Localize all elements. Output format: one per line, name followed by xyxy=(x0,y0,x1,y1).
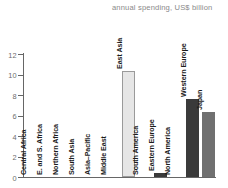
plot-area: Central AfricaE. and S. AfricaNorthern A… xyxy=(23,54,215,177)
x-axis-category-label: Northern Africa xyxy=(51,124,60,175)
y-axis-tick-label: 10 xyxy=(8,71,16,80)
bar[interactable] xyxy=(186,99,199,177)
x-axis-category-label: North America xyxy=(163,127,172,175)
x-axis-category-label: East Asia xyxy=(115,38,124,69)
bar[interactable] xyxy=(202,112,215,177)
y-axis-tick: 0 xyxy=(18,177,23,178)
x-axis-category-label: Middle East xyxy=(99,136,108,175)
x-axis-category-label: Asia–Pacific xyxy=(83,134,92,175)
x-axis-category-label: Japan xyxy=(195,90,204,110)
x-axis-category-label: South America xyxy=(131,126,140,175)
y-axis-tick-label: 2 xyxy=(12,153,16,162)
x-axis-line xyxy=(23,177,216,178)
x-axis-category-label: E. and S. Africa xyxy=(35,124,44,175)
x-axis-category-label: Central Africa xyxy=(19,130,28,175)
y-axis-tick-label: 8 xyxy=(12,91,16,100)
y-axis-tick-label: 12 xyxy=(8,50,16,59)
chart-title: annual spending, US$ billion xyxy=(112,3,212,12)
x-axis-category-label: South Asia xyxy=(67,139,76,175)
y-axis-tick-label: 0 xyxy=(12,173,16,182)
x-axis-category-label: Eastern Europe xyxy=(147,119,156,171)
y-axis-tick-label: 6 xyxy=(12,112,16,121)
y-axis-tick-label: 4 xyxy=(12,132,16,141)
x-axis-category-label: Western Europe xyxy=(179,44,188,98)
